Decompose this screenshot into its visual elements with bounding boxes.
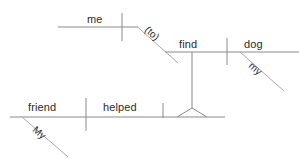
sentence-diagram: me (to) find dog my friend helped My bbox=[0, 0, 299, 159]
label-dog: dog bbox=[244, 38, 263, 50]
my-dog-modifier-slant bbox=[240, 52, 284, 91]
label-me: me bbox=[87, 13, 102, 25]
tripod-right-leg bbox=[192, 108, 207, 117]
label-friend: friend bbox=[28, 101, 56, 113]
label-find: find bbox=[179, 38, 197, 50]
tripod-left-leg bbox=[177, 108, 192, 117]
label-helped: helped bbox=[103, 101, 137, 113]
my-friend-modifier-slant bbox=[22, 117, 68, 157]
